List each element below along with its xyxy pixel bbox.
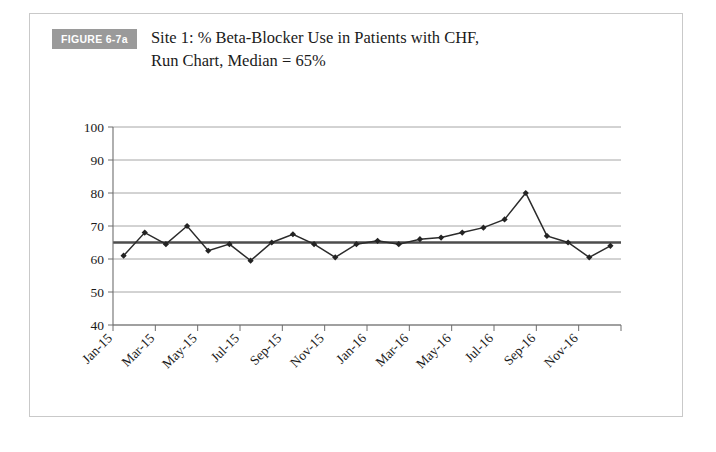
figure-caption-text: Site 1: % Beta-Blocker Use in Patients w… — [151, 26, 479, 73]
figure-number-badge: FIGURE 6-7a — [52, 29, 137, 49]
figure-frame — [29, 13, 683, 417]
figure-caption-row: FIGURE 6-7a Site 1: % Beta-Blocker Use i… — [52, 26, 479, 73]
